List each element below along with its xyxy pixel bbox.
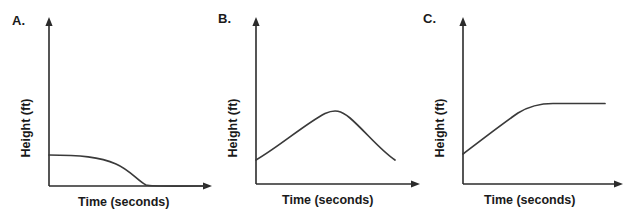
data-curve-c (463, 104, 605, 155)
x-axis-label-c: Time (seconds) (484, 194, 575, 207)
y-axis-label-c: Height (ft) (434, 98, 447, 157)
y-axis-label-a: Height (ft) (20, 98, 33, 157)
graph-panel-c: C. Height (ft) Time (seconds) (418, 0, 630, 220)
x-axis-arrowhead-c (614, 180, 623, 187)
data-curve-a (49, 155, 205, 186)
three-graph-figure: A. Height (ft) Time (seconds) B. Heig (0, 0, 637, 220)
data-curve-b (256, 111, 395, 160)
y-axis-arrowhead-a (45, 17, 52, 26)
graph-panel-a: A. Height (ft) Time (seconds) (0, 0, 212, 220)
y-axis-label-b: Height (ft) (227, 98, 240, 157)
y-axis-arrowhead-c (459, 17, 466, 26)
graph-panel-b: B. Height (ft) Time (seconds) (210, 0, 422, 220)
panel-c-plot (418, 0, 637, 220)
panel-b-plot (210, 0, 422, 220)
y-axis-arrowhead-b (252, 17, 259, 26)
x-axis-label-a: Time (seconds) (78, 196, 169, 209)
x-axis-label-b: Time (seconds) (282, 194, 373, 207)
